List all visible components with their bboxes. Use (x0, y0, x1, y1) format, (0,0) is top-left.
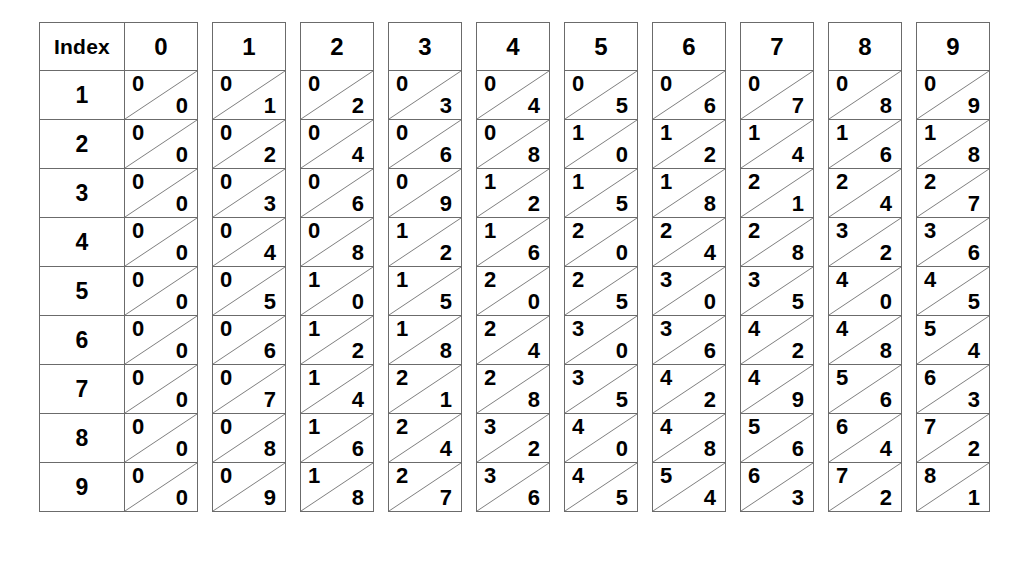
units-digit: 2 (880, 241, 892, 265)
units-digit: 4 (704, 486, 716, 510)
tens-digit: 0 (220, 317, 232, 341)
product-cell: 09 (388, 168, 462, 218)
product-cell: 35 (564, 364, 638, 414)
units-digit: 7 (264, 388, 276, 412)
column-header: 4 (476, 22, 550, 71)
index-cell: 7 (39, 364, 125, 414)
units-digit: 2 (352, 94, 364, 118)
units-digit: 8 (528, 388, 540, 412)
product-cell: 08 (476, 119, 550, 169)
tens-digit: 2 (484, 317, 496, 341)
units-digit: 0 (880, 290, 892, 314)
bone-column-4: 4040812162024283236 (476, 22, 550, 512)
tens-digit: 0 (220, 72, 232, 96)
product-cell: 40 (564, 413, 638, 463)
units-digit: 5 (616, 192, 628, 216)
units-digit: 6 (440, 143, 452, 167)
tens-digit: 0 (132, 366, 144, 390)
product-cell: 00 (124, 364, 198, 414)
napier-bones-board: Index12345678900000000000000000001010203… (0, 0, 1036, 583)
bone-column-7: 7071421283542495663 (740, 22, 814, 512)
tens-digit: 2 (572, 268, 584, 292)
units-digit: 5 (616, 486, 628, 510)
tens-digit: 0 (132, 268, 144, 292)
product-cell: 28 (476, 364, 550, 414)
units-digit: 6 (704, 94, 716, 118)
units-digit: 8 (440, 339, 452, 363)
bone-column-6: 6061218243036424854 (652, 22, 726, 512)
tens-digit: 0 (308, 170, 320, 194)
product-cell: 25 (564, 266, 638, 316)
tens-digit: 8 (924, 464, 936, 488)
tens-digit: 0 (132, 464, 144, 488)
units-digit: 4 (880, 192, 892, 216)
tens-digit: 3 (836, 219, 848, 243)
tens-digit: 6 (924, 366, 936, 390)
product-cell: 54 (652, 462, 726, 512)
product-cell: 36 (476, 462, 550, 512)
tens-digit: 1 (484, 219, 496, 243)
column-header: 2 (300, 22, 374, 71)
bone-column-0: 0000000000000000000 (124, 22, 198, 512)
product-cell: 07 (740, 70, 814, 120)
units-digit: 5 (616, 290, 628, 314)
tens-digit: 6 (836, 415, 848, 439)
units-digit: 4 (440, 437, 452, 461)
units-digit: 2 (792, 339, 804, 363)
tens-digit: 0 (836, 72, 848, 96)
product-cell: 12 (652, 119, 726, 169)
bone-column-1: 1010203040506070809 (212, 22, 286, 512)
units-digit: 1 (792, 192, 804, 216)
units-digit: 6 (352, 437, 364, 461)
units-digit: 1 (440, 388, 452, 412)
tens-digit: 0 (572, 72, 584, 96)
tens-digit: 5 (660, 464, 672, 488)
tens-digit: 3 (572, 317, 584, 341)
tens-digit: 4 (748, 317, 760, 341)
tens-digit: 1 (396, 268, 408, 292)
tens-digit: 1 (308, 268, 320, 292)
tens-digit: 0 (220, 219, 232, 243)
product-cell: 12 (476, 168, 550, 218)
tens-digit: 4 (572, 415, 584, 439)
product-cell: 63 (916, 364, 990, 414)
tens-digit: 2 (396, 415, 408, 439)
tens-digit: 0 (660, 72, 672, 96)
product-cell: 12 (388, 217, 462, 267)
units-digit: 3 (792, 486, 804, 510)
product-cell: 72 (916, 413, 990, 463)
index-cell: 5 (39, 266, 125, 316)
product-cell: 64 (828, 413, 902, 463)
column-header: 9 (916, 22, 990, 71)
tens-digit: 2 (572, 219, 584, 243)
product-cell: 30 (564, 315, 638, 365)
product-cell: 21 (740, 168, 814, 218)
tens-digit: 1 (836, 121, 848, 145)
product-cell: 08 (300, 217, 374, 267)
index-cell: 4 (39, 217, 125, 267)
tens-digit: 5 (748, 415, 760, 439)
product-cell: 16 (476, 217, 550, 267)
product-cell: 36 (652, 315, 726, 365)
product-cell: 06 (212, 315, 286, 365)
product-cell: 56 (740, 413, 814, 463)
units-digit: 3 (440, 94, 452, 118)
product-cell: 24 (388, 413, 462, 463)
bone-column-9: 9091827364554637281 (916, 22, 990, 512)
product-cell: 08 (212, 413, 286, 463)
units-digit: 6 (792, 437, 804, 461)
units-digit: 9 (792, 388, 804, 412)
index-column-header: Index (39, 22, 125, 71)
units-digit: 4 (704, 241, 716, 265)
tens-digit: 7 (924, 415, 936, 439)
product-cell: 81 (916, 462, 990, 512)
product-cell: 00 (124, 70, 198, 120)
product-cell: 00 (124, 217, 198, 267)
tens-digit: 3 (484, 464, 496, 488)
tens-digit: 0 (396, 72, 408, 96)
tens-digit: 1 (308, 464, 320, 488)
index-cell: 3 (39, 168, 125, 218)
units-digit: 0 (616, 339, 628, 363)
tens-digit: 0 (132, 415, 144, 439)
tens-digit: 0 (220, 268, 232, 292)
